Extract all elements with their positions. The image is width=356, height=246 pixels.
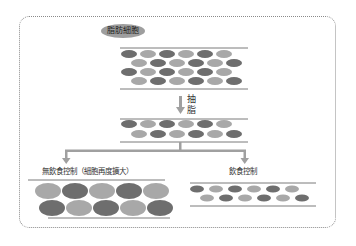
diet-control-cell-block [190, 183, 316, 206]
diet-control-label: 飲食控制 [229, 165, 257, 176]
no-diet-control-label: 無飲食控制（細胞再度擴大） [42, 165, 133, 176]
liposuction-label-line2: 脂 [187, 105, 197, 116]
top-cell-block [120, 48, 248, 89]
diagram-canvas [0, 0, 356, 246]
liposuction-label-line1: 抽 [187, 94, 197, 105]
liposuction-label: 抽 脂 [187, 94, 197, 116]
middle-cell-block [120, 119, 248, 142]
no-diet-cell-block [28, 180, 173, 218]
branch-connector [62, 142, 249, 164]
down-arrow-icon [176, 96, 185, 114]
